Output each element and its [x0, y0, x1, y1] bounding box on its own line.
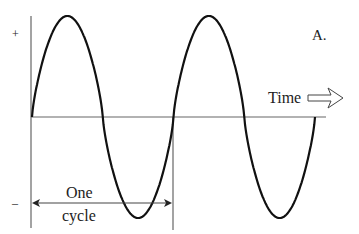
cycle-label-line1: One [66, 184, 93, 201]
time-label: Time [268, 89, 301, 106]
cycle-label-line2: cycle [62, 207, 96, 225]
plus-marker: + [12, 27, 19, 41]
time-arrow-icon [308, 88, 343, 108]
sine-wave-diagram: + – A. Time One cycle [0, 0, 359, 234]
minus-marker: – [11, 196, 19, 210]
panel-label: A. [312, 27, 327, 43]
